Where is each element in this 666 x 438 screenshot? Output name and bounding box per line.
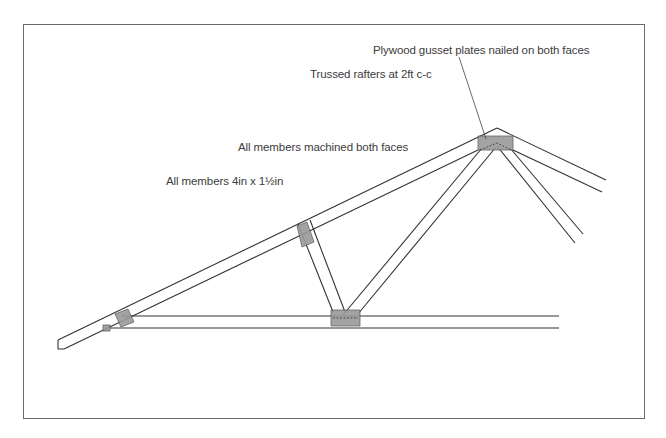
- annotation-machined: All members machined both faces: [238, 141, 408, 153]
- long-web: [343, 147, 496, 315]
- gusset-leader-line: [459, 57, 486, 139]
- annotation-gusset-plates: Plywood gusset plates nailed on both fac…: [373, 44, 589, 56]
- right-web: [497, 146, 583, 243]
- truss-drawing: [0, 0, 666, 438]
- mid-rafter-gusset: [297, 222, 314, 247]
- annotation-member-size: All members 4in x 1½in: [166, 175, 283, 187]
- heel-block: [103, 325, 110, 331]
- apex-gusset: [478, 136, 513, 150]
- annotation-trussed-rafters: Trussed rafters at 2ft c-c: [310, 68, 432, 80]
